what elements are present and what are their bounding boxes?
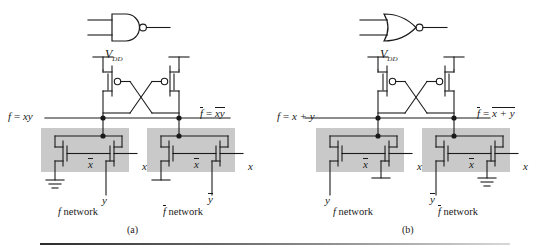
output-label-fbar-b: f = x + y (477, 107, 515, 120)
fbar-network-box (147, 128, 235, 172)
panel-caption-b: (b) (402, 224, 414, 235)
panel-caption-a: (a) (127, 224, 138, 235)
pmos-left (103, 66, 130, 118)
input-label-y-b-f: y (325, 194, 330, 206)
cross-couple-wires (378, 82, 454, 114)
vdd-label-b: VDD (380, 47, 397, 63)
pmos-right (427, 66, 454, 118)
fbar-network-box (422, 128, 510, 172)
output-label-f-b: f = x + y (277, 110, 315, 122)
panel-b-schematic (275, 0, 550, 250)
vdd-label-a: VDD (105, 47, 122, 63)
gate-label-xbar-a-f: x (88, 158, 93, 171)
output-label-f-a: f = xy (8, 110, 33, 122)
pmos-right (152, 66, 179, 118)
input-label-y-a-f: y (102, 194, 107, 206)
figure-canvas: VDD f = xy f = xy x x y x x y f network … (0, 0, 550, 250)
panel-a-schematic (0, 0, 275, 250)
cross-couple-wires (103, 82, 179, 114)
input-label-ybar-b-fbar: y (430, 193, 435, 206)
f-network-caption-a: f network (58, 206, 98, 217)
bottom-rule (40, 243, 510, 245)
f-network-box (316, 128, 404, 172)
gate-label-x-a-f: x (142, 160, 147, 172)
gate-label-x-b-fbar: x (523, 160, 528, 172)
gate-label-x-b-f: x (417, 160, 422, 172)
pmos-left (378, 66, 405, 118)
gate-label-xbar-b-fbar: x (469, 158, 474, 171)
input-label-ybar-a-fbar: y (208, 193, 213, 206)
nand-gate-symbol (88, 14, 170, 41)
gate-label-xbar-a-fbar: x (194, 158, 199, 171)
gate-label-xbar-b-f: x (363, 158, 368, 171)
output-label-fbar-a: f = xy (200, 107, 225, 120)
nor-gate-symbol (360, 14, 447, 41)
fbar-network-caption-b: f network (438, 205, 478, 217)
f-network-box (41, 128, 129, 172)
f-network-caption-b: f network (333, 206, 373, 217)
gate-label-x-a-fbar: x (248, 160, 253, 172)
fbar-network-caption-a: f network (163, 205, 203, 217)
